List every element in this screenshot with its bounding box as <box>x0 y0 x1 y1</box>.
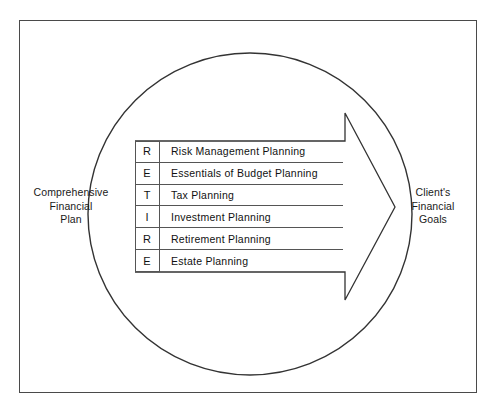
acronym-letter: T <box>135 185 160 206</box>
planning-item-label: Retirement Planning <box>160 233 343 245</box>
right-label-line-1: Client's <box>388 186 478 200</box>
planning-item-label: Tax Planning <box>160 189 343 201</box>
left-label-line-3: Plan <box>11 213 131 227</box>
planning-item-label: Essentials of Budget Planning <box>160 167 343 179</box>
table-row: R Retirement Planning <box>135 228 343 250</box>
left-label-line-1: Comprehensive <box>11 186 131 200</box>
diagram-canvas: Comprehensive Financial Plan Client's Fi… <box>0 0 496 410</box>
acronym-letter: I <box>135 206 160 227</box>
table-row: E Estate Planning <box>135 250 343 272</box>
right-label: Client's Financial Goals <box>388 186 478 227</box>
left-label-line-2: Financial <box>11 200 131 214</box>
table-row: E Essentials of Budget Planning <box>135 163 343 185</box>
right-label-line-3: Goals <box>388 213 478 227</box>
table-row: R Risk Management Planning <box>135 141 343 163</box>
acronym-letter: E <box>135 250 160 272</box>
planning-item-label: Estate Planning <box>160 255 343 267</box>
table-row: I Investment Planning <box>135 206 343 228</box>
acronym-letter: R <box>135 228 160 249</box>
right-label-line-2: Financial <box>388 200 478 214</box>
planning-item-label: Investment Planning <box>160 211 343 223</box>
acronym-letter: R <box>135 141 160 162</box>
planning-item-label: Risk Management Planning <box>160 145 343 157</box>
retire-acronym-table: R Risk Management Planning E Essentials … <box>135 141 343 272</box>
left-label: Comprehensive Financial Plan <box>11 186 131 227</box>
table-row: T Tax Planning <box>135 185 343 207</box>
acronym-letter: E <box>135 163 160 184</box>
